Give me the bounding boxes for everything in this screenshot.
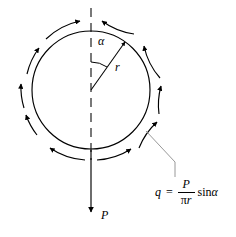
formula-numerator: P [179, 178, 192, 192]
shear-flow-arrow [46, 21, 80, 39]
radius-label: r [115, 61, 120, 73]
shear-flow-arrow [97, 149, 131, 160]
formula-leader-line [146, 131, 175, 177]
shear-flow-arrow [26, 115, 37, 135]
denominator-radius: r [187, 193, 192, 207]
alpha-angle-arc [91, 62, 107, 67]
force-label: P [101, 209, 108, 221]
shear-flow-arrow [158, 86, 161, 114]
shear-flow-arrow [21, 84, 24, 108]
shear-flow-arrow [102, 21, 134, 34]
shear-flow-figure: α r P q = P πr sinα [0, 0, 236, 237]
formula-equals-sign: = [166, 185, 173, 200]
trig-function-name: sin [198, 185, 212, 199]
formula-fraction: P πr [178, 178, 195, 206]
shear-flow-arrow [50, 148, 85, 160]
formula-lhs: q [155, 185, 161, 200]
angle-alpha-label: α [98, 35, 104, 47]
shear-flow-arrow [27, 48, 39, 74]
trig-argument: α [212, 185, 218, 199]
shear-flow-arrow [144, 46, 160, 78]
formula-trig: sinα [198, 185, 218, 200]
shear-flow-formula: q = P πr sinα [155, 178, 218, 206]
shear-flow-arrow [139, 122, 157, 148]
formula-denominator: πr [178, 193, 195, 207]
